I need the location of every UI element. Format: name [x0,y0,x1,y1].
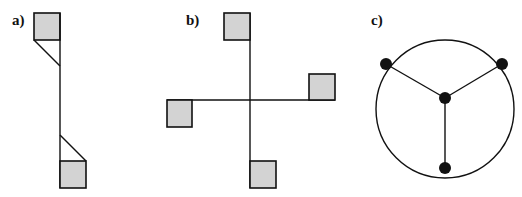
panel-b-right-square [309,74,335,100]
panel-c-edge-right [445,64,502,98]
panel-c-node-top-right [496,58,508,70]
panel-a-top-diagonal [34,40,60,66]
panel-b: b) [167,12,335,188]
panel-b-left-square [167,100,192,127]
panel-b-bottom-square [250,161,276,188]
panel-a-label: a) [12,12,25,29]
panel-a-bottom-square [60,161,86,188]
diagram-canvas: a) b) c) [0,0,522,197]
panel-a-top-square [34,13,60,40]
panel-b-top-square [224,13,250,40]
panel-c-node-top-left [380,58,392,70]
panel-b-label: b) [186,12,199,29]
panel-c-node-bottom [439,162,451,174]
panel-c-edge-left [386,64,445,98]
panel-c: c) [371,12,514,178]
panel-c-label: c) [371,12,383,29]
panel-c-node-center [439,92,451,104]
panel-a: a) [12,12,86,188]
panel-a-bottom-diagonal [60,135,86,161]
